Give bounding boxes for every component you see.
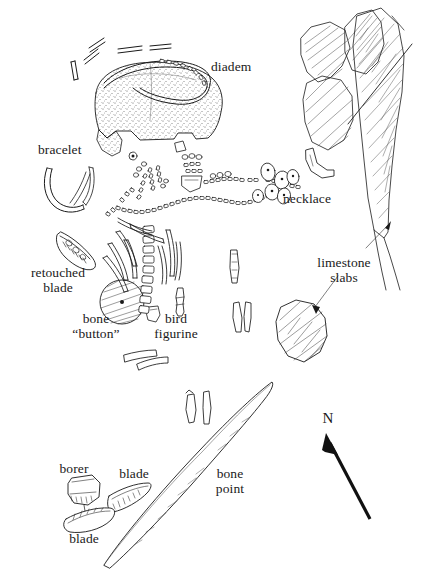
ring-bead	[129, 152, 137, 160]
label-bone-point: bone point	[190, 466, 270, 496]
north-arrow	[322, 433, 370, 519]
label-blade-upper: blade	[94, 466, 174, 481]
label-bird-figurine: bird figurine	[128, 311, 224, 341]
blade-lower	[64, 508, 115, 533]
blade-upper	[108, 483, 151, 512]
label-bracelet: bracelet	[38, 142, 82, 157]
bracelet	[44, 167, 94, 212]
limestone-slab-mass	[301, 8, 412, 290]
label-blade-lower: blade	[44, 531, 124, 546]
site-plan-figure: diadem bracelet necklace retouched blade…	[0, 0, 427, 581]
label-north: N	[313, 410, 343, 427]
label-retouched-blade: retouched blade	[10, 265, 106, 295]
label-diadem: diadem	[211, 59, 251, 74]
limestone-slab-isolated	[276, 300, 327, 362]
necklace-terminal	[306, 148, 334, 178]
label-limestone-slabs: limestone slabs	[296, 255, 392, 285]
necklace-patch	[182, 154, 202, 192]
label-necklace: necklace	[283, 191, 331, 206]
